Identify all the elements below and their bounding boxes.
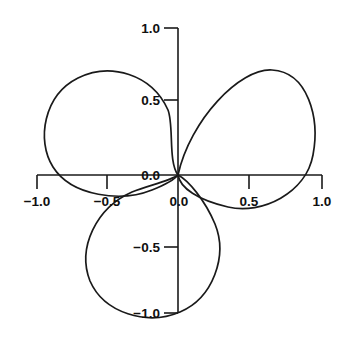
y-label-neg-one: −1.0: [133, 306, 160, 321]
y-label-one: 1.0: [141, 21, 160, 36]
y-label-half: 0.5: [141, 93, 160, 108]
x-label-neg-half: −0.5: [94, 194, 121, 209]
x-label-neg-one: −1.0: [24, 194, 51, 209]
x-tick-marks: [37, 175, 322, 189]
polar-rose-chart: −1.0 −0.5 0.0 0.5 1.0 1.0 0.5 0.0 −0.5 −…: [0, 0, 345, 343]
x-label-one: 1.0: [313, 194, 332, 209]
petal-upper-right: [178, 70, 315, 209]
y-label-neg-half: −0.5: [133, 240, 160, 255]
x-label-half: 0.5: [240, 194, 259, 209]
y-label-zero: 0.0: [141, 168, 160, 183]
y-tick-labels: 1.0 0.5 0.0 −0.5 −1.0: [133, 21, 160, 321]
x-label-zero: 0.0: [170, 194, 189, 209]
chart-canvas: −1.0 −0.5 0.0 0.5 1.0 1.0 0.5 0.0 −0.5 −…: [0, 0, 345, 343]
